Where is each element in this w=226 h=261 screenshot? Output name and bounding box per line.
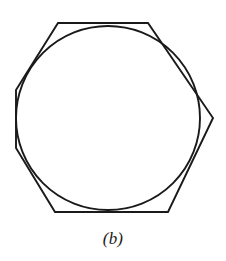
- figure-drawing: [0, 0, 226, 261]
- figure-panel: (b): [0, 0, 226, 261]
- inscribed-circle: [16, 26, 200, 210]
- figure-caption: (b): [0, 228, 226, 250]
